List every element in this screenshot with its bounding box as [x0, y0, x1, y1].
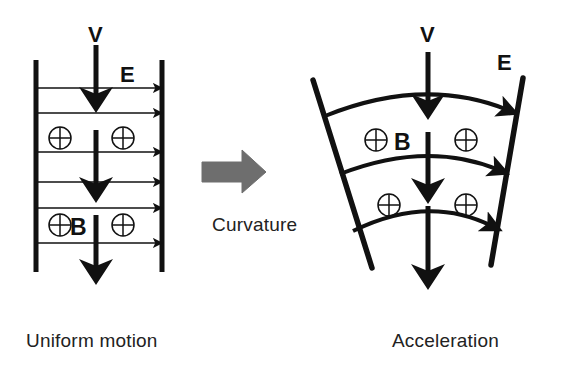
uniform-velocity-label: V: [88, 22, 103, 47]
physics-diagram: V E B V E B: [0, 0, 576, 374]
acceleration-efield-label: E: [497, 50, 512, 75]
charge-symbol: [365, 129, 387, 151]
acceleration-bfield-label: B: [394, 129, 411, 155]
figure-background: [0, 0, 576, 374]
acceleration-caption: Acceleration: [392, 330, 499, 352]
charge-symbol: [455, 129, 477, 151]
uniform-efield-label: E: [120, 62, 135, 87]
uniform-bfield-label: B: [70, 214, 87, 240]
acceleration-velocity-label: V: [420, 22, 435, 47]
charge-symbol: [112, 214, 134, 236]
charge-symbol: [112, 127, 134, 149]
uniform-motion-caption: Uniform motion: [26, 330, 158, 352]
charge-symbol: [378, 194, 400, 216]
charge-symbol: [49, 214, 71, 236]
charge-symbol: [49, 127, 71, 149]
curvature-caption: Curvature: [212, 214, 297, 236]
charge-symbol: [455, 194, 477, 216]
